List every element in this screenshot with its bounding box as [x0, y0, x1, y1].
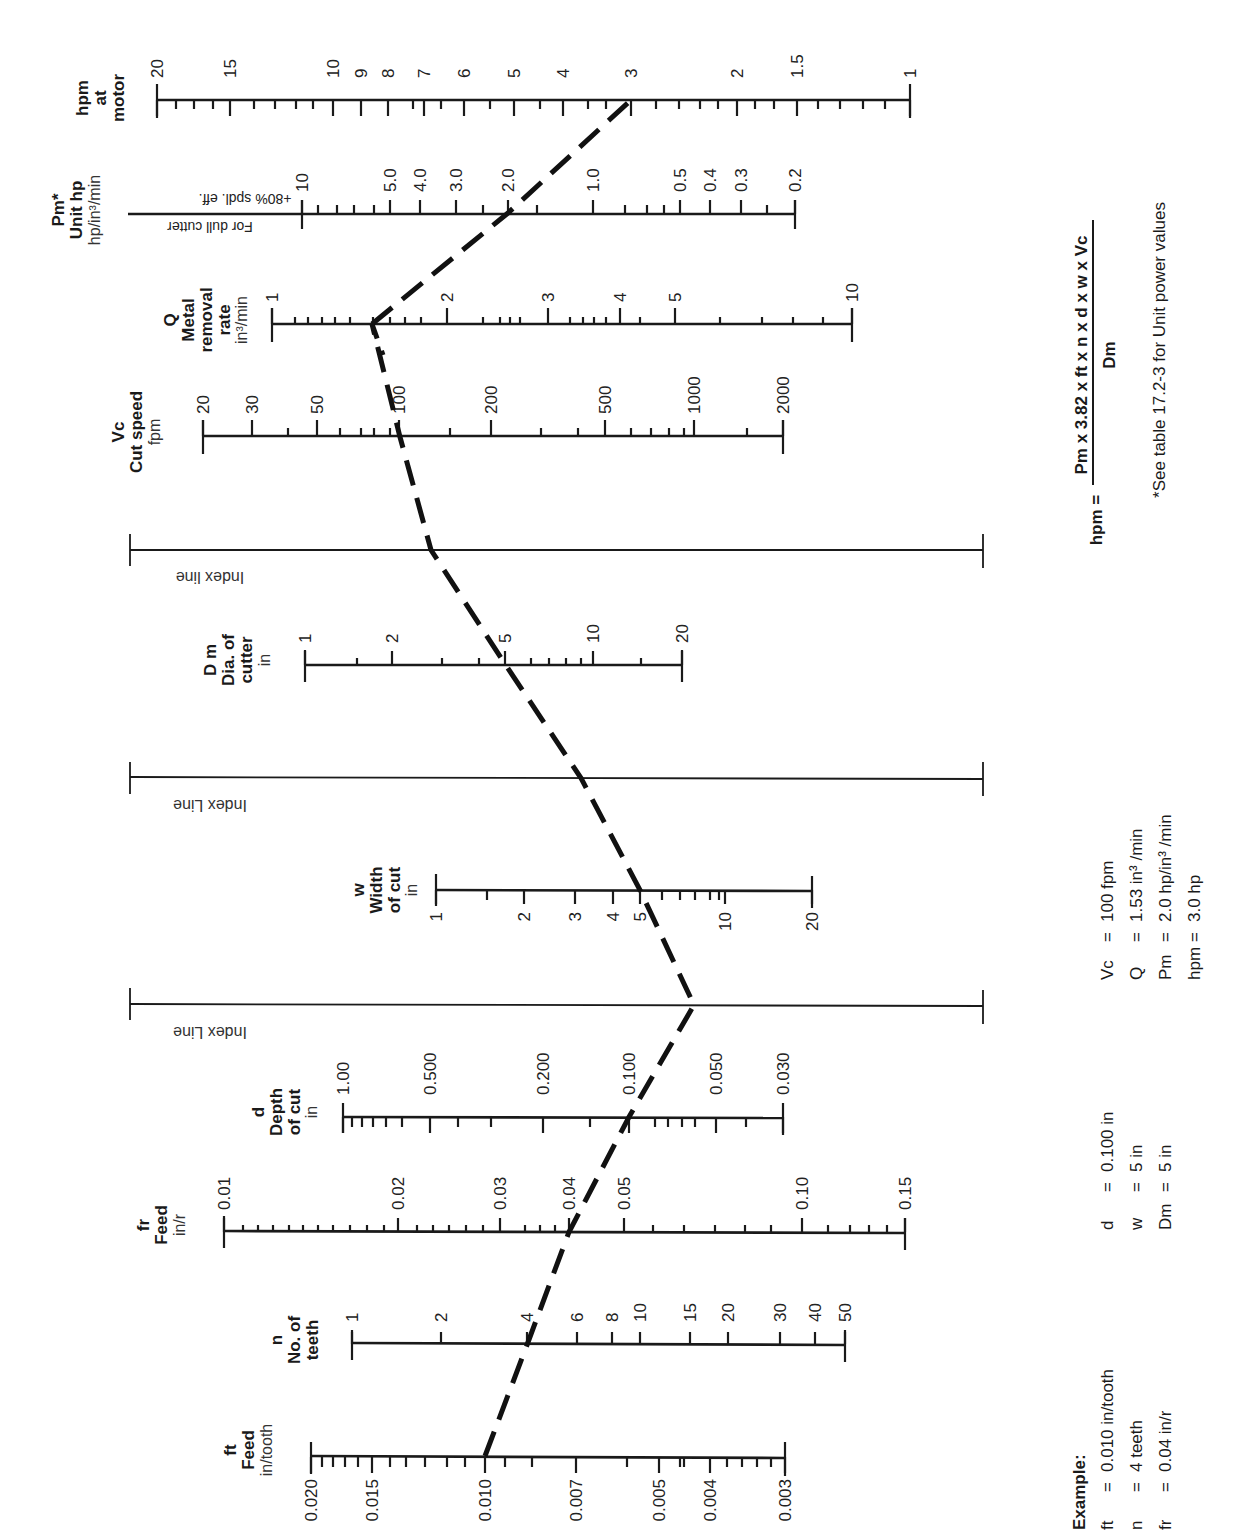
tick-label: 0.050 — [707, 1052, 726, 1095]
tick-label: 4.0 — [411, 168, 430, 192]
tick-label: 200 — [482, 386, 501, 414]
example-symbol: Pm — [1156, 955, 1175, 981]
axis-title-q: Q Metal removal rate in³/min — [161, 287, 250, 352]
svg-text:Width: Width — [367, 866, 386, 913]
tick-label: 20 — [673, 624, 692, 643]
svg-text:cutter: cutter — [237, 636, 256, 684]
svg-text:hp/in³/min: hp/in³/min — [86, 175, 103, 245]
tick-label: 0.100 — [620, 1052, 639, 1095]
tick-label: 4 — [554, 69, 573, 78]
svg-text:in³/min: in³/min — [233, 296, 250, 344]
tick-label: 2 — [728, 69, 747, 78]
svg-text:Index line: Index line — [176, 569, 245, 586]
tick-label: 2 — [383, 634, 402, 643]
tick-label: 0.10 — [793, 1177, 812, 1210]
tick-label: 0.015 — [363, 1479, 382, 1522]
tick-label: 1000 — [685, 376, 704, 414]
axis-ft: 0.0200.0150.0100.0070.0050.0040.003 — [302, 1442, 795, 1522]
example-value: 4 teeth — [1127, 1420, 1146, 1472]
example-value: 2.0 hp/in³ /min — [1156, 814, 1175, 922]
tick-label: 6 — [455, 69, 474, 78]
svg-text:in/tooth: in/tooth — [258, 1424, 275, 1476]
tick-label: 3 — [539, 293, 558, 302]
tick-label: 0.020 — [302, 1479, 321, 1522]
example-value: 1.53 in³ /min — [1127, 828, 1146, 922]
example-equals: = — [1127, 932, 1146, 942]
tick-label: 0.4 — [701, 168, 720, 192]
svg-text:motor: motor — [109, 74, 128, 123]
tick-label: 7 — [415, 69, 434, 78]
svg-text:Depth: Depth — [267, 1088, 286, 1136]
axis-n: 12468101520304050 — [343, 1303, 855, 1362]
svg-text:fr: fr — [134, 1218, 153, 1231]
svg-text:of cut: of cut — [385, 867, 404, 914]
svg-text:rate: rate — [215, 304, 234, 335]
formula: hpm = Pm x 3.82 x ft x n x d x w x Vc Dm — [1072, 220, 1119, 545]
tick-label: 3 — [566, 912, 585, 921]
pm-note-spindle-eff: +80% spdl. eff. — [199, 191, 292, 207]
svg-text:in: in — [303, 1106, 320, 1118]
tick-label: 500 — [596, 386, 615, 414]
svg-text:D m: D m — [201, 644, 220, 676]
axis-hpm: 201510987654321.51 — [148, 54, 920, 118]
tick-label: 5 — [666, 293, 685, 302]
example-symbol: Dm — [1156, 1204, 1175, 1230]
svg-text:at: at — [91, 90, 110, 105]
example-equals: = — [1098, 1182, 1117, 1192]
svg-text:Index Line: Index Line — [173, 1024, 247, 1041]
tick-label: 50 — [308, 395, 327, 414]
tick-label: 0.004 — [701, 1479, 720, 1522]
example-value: 3.0 hp — [1185, 875, 1204, 922]
axis-q: 1234510 — [263, 283, 862, 342]
tick-label: 8 — [379, 69, 398, 78]
example-value: 0.100 in — [1098, 1112, 1117, 1173]
tick-label: 20 — [803, 912, 822, 931]
tick-label: 15 — [221, 59, 240, 78]
svg-text:ft: ft — [221, 1444, 240, 1456]
tick-label: 10 — [631, 1303, 650, 1322]
tick-label: 5 — [631, 912, 650, 921]
svg-text:of cut: of cut — [285, 1089, 304, 1136]
axis-title-d: d Depth of cut in — [249, 1088, 320, 1136]
example-equals: = — [1127, 1482, 1146, 1492]
tick-label: 0.007 — [567, 1479, 586, 1522]
svg-text:*See table 17.2-3 for Unit pow: *See table 17.2-3 for Unit power values — [1150, 202, 1169, 498]
tick-label: 6 — [568, 1313, 587, 1322]
formula-denominator: Dm — [1100, 341, 1119, 368]
tick-label: 1 — [343, 1313, 362, 1322]
axis-title-ft: ft Feed in/tooth — [221, 1424, 275, 1476]
svg-text:Q: Q — [161, 313, 180, 326]
tick-label: 0.2 — [786, 168, 805, 192]
tick-label: 0.003 — [776, 1479, 795, 1522]
footnote: *See table 17.2-3 for Unit power values — [1150, 202, 1169, 498]
tick-label: 0.5 — [671, 168, 690, 192]
axis-title-vc: Vc Cut speed fpm — [109, 391, 163, 473]
svg-text:Vc: Vc — [109, 422, 128, 443]
tick-label: 2.0 — [499, 168, 518, 192]
svg-text:Unit hp: Unit hp — [67, 181, 86, 240]
tick-label: 20 — [148, 59, 167, 78]
example-symbol: hpm — [1185, 947, 1204, 980]
tick-label: 2 — [438, 293, 457, 302]
example-value: 0.04 in/r — [1156, 1410, 1175, 1472]
example-symbol: w — [1127, 1217, 1146, 1231]
tick-label: 0.200 — [534, 1052, 553, 1095]
example-value: 100 fpm — [1098, 861, 1117, 922]
example-value: 5 in — [1127, 1145, 1146, 1172]
tick-label: 10 — [716, 912, 735, 931]
example-heading: Example: — [1070, 1454, 1089, 1530]
axis-title-dm: D m Dia. of cutter in — [201, 634, 273, 686]
tick-label: 20 — [719, 1303, 738, 1322]
tick-label: 30 — [771, 1303, 790, 1322]
svg-text:Feed: Feed — [152, 1205, 171, 1245]
tick-label: 4 — [604, 912, 623, 921]
tick-label: 1.0 — [584, 168, 603, 192]
tick-label: 1 — [296, 634, 315, 643]
example-symbol: d — [1098, 1221, 1117, 1230]
svg-text:d: d — [249, 1107, 268, 1117]
example-symbol: Vc — [1098, 960, 1117, 980]
tick-label: 1.5 — [788, 54, 807, 78]
svg-text:fpm: fpm — [146, 419, 163, 446]
axis-fr: 0.010.020.030.040.050.100.15 — [215, 1177, 915, 1250]
nomogram: 201510987654321.51 hpm at motor 105.04.0… — [0, 0, 1241, 1540]
